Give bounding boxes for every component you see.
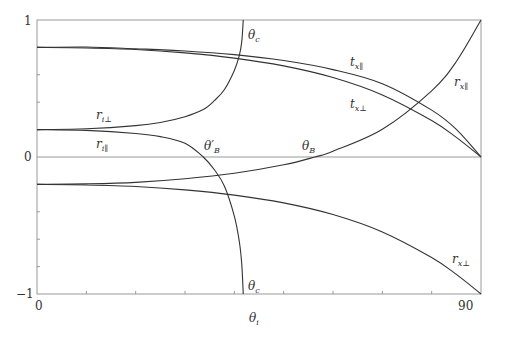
- y-tick-0: 0: [24, 151, 32, 163]
- label-t-x-par: tx∥: [350, 56, 363, 71]
- label-r-x-perp: rx⊥: [452, 253, 470, 268]
- curve-ri: [37, 20, 243, 130]
- y-tick-neg1: −1: [16, 288, 34, 300]
- label-theta-b-prime: θ′B: [204, 140, 220, 155]
- label-r-i-perp: ri⊥: [96, 109, 112, 124]
- label-theta-c-bottom: θc: [248, 280, 260, 295]
- x-tick-90: 90: [458, 300, 473, 312]
- y-tick-1: 1: [24, 15, 32, 27]
- label-r-x-par: rx∥: [454, 76, 468, 91]
- label-r-i-par: ri∥: [96, 138, 108, 153]
- curve-rx: [37, 184, 481, 294]
- x-tick-0: 0: [35, 300, 43, 312]
- label-theta-b: θB: [302, 140, 315, 155]
- x-axis-label: θi: [249, 312, 259, 327]
- label-theta-c-top: θc: [248, 29, 260, 44]
- label-t-x-perp: tx⊥: [350, 98, 367, 113]
- curve-rx: [37, 20, 481, 184]
